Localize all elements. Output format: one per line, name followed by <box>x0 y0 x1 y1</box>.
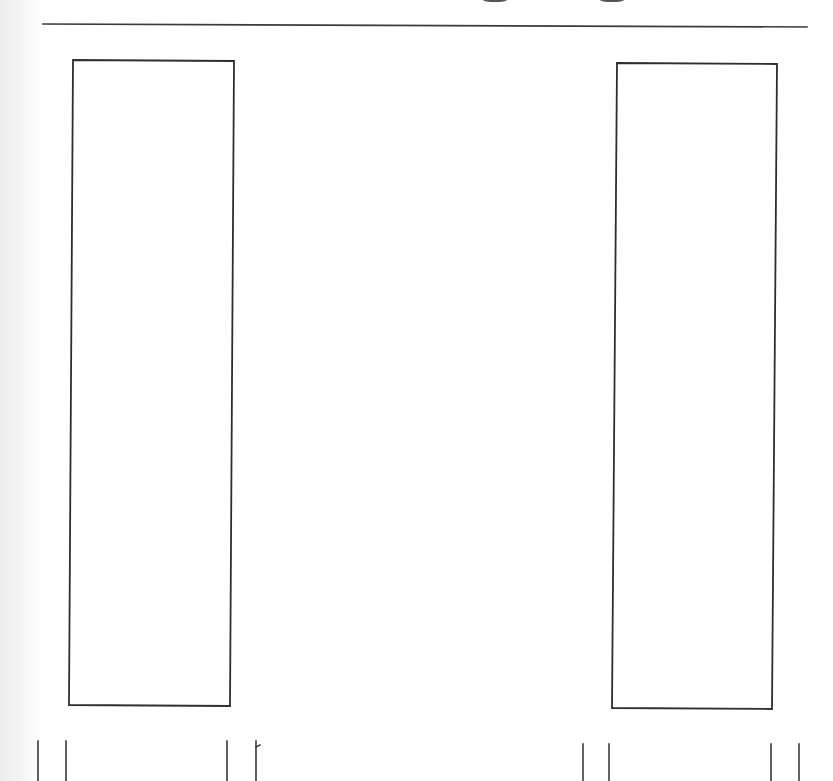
panels <box>69 60 777 709</box>
left-panel <box>69 60 234 706</box>
cut-off-top-fragments <box>483 0 624 2</box>
top-rule-line <box>43 24 807 27</box>
line-drawing <box>0 0 833 781</box>
glyph-fragment-2 <box>600 0 624 2</box>
legs <box>38 741 799 781</box>
glyph-fragment-1 <box>483 0 507 2</box>
right-panel <box>612 63 777 709</box>
